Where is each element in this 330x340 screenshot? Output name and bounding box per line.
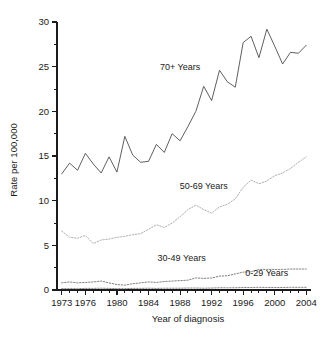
x-axis-major-ticks: [62, 290, 307, 295]
series-label-70-years: 70+ Years: [160, 62, 201, 72]
series-annotation-labels: 70+ Years50-69 Years30-49 Years0-29 Year…: [158, 62, 289, 277]
x-tick-label: 1996: [233, 297, 254, 308]
x-tick-label: 1973: [51, 297, 72, 308]
series-label-0-29-years: 0-29 Years: [245, 268, 289, 278]
x-tick-label: 2004: [296, 297, 317, 308]
y-tick-label: 30: [38, 16, 49, 27]
line-chart-canvas: 051015202530 197319761980198419881992199…: [0, 0, 330, 340]
x-tick-label: 1984: [138, 297, 159, 308]
x-tick-label: 1976: [75, 297, 96, 308]
y-tick-label: 0: [44, 284, 49, 295]
y-axis-title: Rate per 100,000: [8, 123, 19, 196]
series-line-70-years: [62, 29, 307, 174]
series-label-30-49-years: 30-49 Years: [158, 253, 207, 263]
y-tick-label: 10: [38, 195, 49, 206]
x-tick-label: 1992: [201, 297, 222, 308]
y-axis-major-ticks: [52, 22, 57, 290]
x-tick-label: 1988: [169, 297, 190, 308]
x-tick-label: 1980: [106, 297, 127, 308]
x-tick-label: 2000: [264, 297, 285, 308]
y-tick-label: 15: [38, 150, 49, 161]
y-tick-label: 5: [44, 240, 49, 251]
x-axis-title: Year of diagnosis: [152, 313, 225, 324]
y-axis-tick-labels: 051015202530: [38, 16, 49, 295]
x-axis-tick-labels: 197319761980198419881992199620002004: [51, 297, 317, 308]
y-tick-label: 25: [38, 61, 49, 72]
y-tick-label: 20: [38, 106, 49, 117]
series-label-50-69-years: 50-69 Years: [180, 181, 229, 191]
chart-figure: 051015202530 197319761980198419881992199…: [0, 0, 330, 340]
series-line-0-29-years: [62, 287, 307, 288]
